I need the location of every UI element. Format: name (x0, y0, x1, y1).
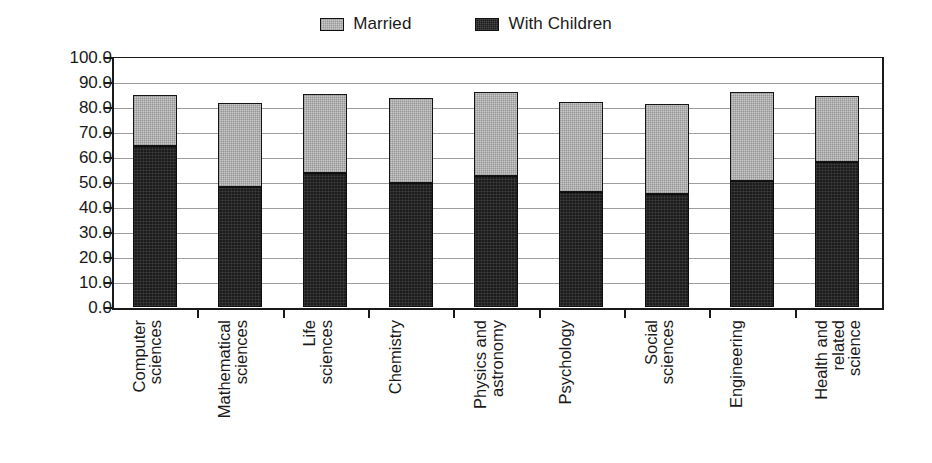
y-tick-mark (104, 57, 112, 59)
y-tick-mark (104, 107, 112, 109)
bar-segment-married (645, 104, 689, 194)
x-axis-label: Mathematicalsciences (216, 320, 249, 463)
bar-segment-married (474, 92, 518, 176)
bar-segment-with-children (389, 183, 433, 307)
chart-container: Married With Children Percent Men 100.09… (0, 0, 932, 463)
bar-segment-married (133, 95, 177, 146)
x-axis-label-line: Social (643, 320, 660, 365)
y-tick-mark (104, 182, 112, 184)
chart-legend: Married With Children (0, 14, 932, 34)
y-tick-label: 0.0 (48, 299, 112, 316)
legend-swatch-with-children-icon (475, 18, 499, 31)
x-axis-label-line: Mathematical (216, 320, 233, 418)
x-axis-label-line: sciences (318, 320, 335, 384)
x-tick-mark (197, 309, 199, 318)
x-axis-label-line: Chemistry (387, 320, 404, 394)
legend-label-with-children: With Children (508, 14, 611, 34)
y-tick-label: 50.0 (48, 174, 112, 191)
x-tick-mark (795, 309, 797, 318)
bar-group (389, 57, 433, 307)
x-axis-label-line: Engineering (728, 320, 745, 408)
x-axis-label: Computersciences (131, 320, 164, 463)
y-tick-label: 70.0 (48, 124, 112, 141)
y-tick-mark (104, 157, 112, 159)
bar-group (474, 57, 518, 307)
y-tick-label: 90.0 (48, 74, 112, 91)
y-tick-label: 20.0 (48, 249, 112, 266)
bar-segment-with-children (815, 162, 859, 307)
x-tick-mark (709, 309, 711, 318)
x-axis-label: Physics andastronomy (472, 320, 505, 463)
bar-group (730, 57, 774, 307)
x-axis-ticks (112, 309, 880, 319)
x-axis-label: Engineering (728, 320, 745, 463)
y-tick-mark (104, 132, 112, 134)
x-axis-label-line: related (830, 320, 847, 370)
y-tick-mark (104, 232, 112, 234)
bar-segment-married (815, 96, 859, 162)
y-tick-label: 10.0 (48, 274, 112, 291)
x-axis-label-line: sciences (659, 320, 676, 384)
bar-segment-married (730, 92, 774, 181)
bar-segment-with-children (559, 192, 603, 307)
y-tick-label: 30.0 (48, 224, 112, 241)
bar-segment-with-children (730, 181, 774, 307)
x-tick-mark (539, 309, 541, 318)
x-axis-label-line: Life (301, 320, 318, 347)
legend-label-married: Married (353, 14, 411, 34)
y-tick-label: 100.0 (48, 49, 112, 66)
x-axis-label-line: Computer (131, 320, 148, 392)
y-tick-mark (104, 207, 112, 209)
bar-segment-with-children (645, 194, 689, 307)
bar-group (645, 57, 689, 307)
x-axis-label-line: sciences (147, 320, 164, 384)
y-tick-mark (104, 257, 112, 259)
y-tick-label: 40.0 (48, 199, 112, 216)
y-tick-mark (104, 307, 112, 309)
y-tick-mark (104, 282, 112, 284)
bar-group (303, 57, 347, 307)
x-axis-label-line: Physics and (472, 320, 489, 409)
bar-segment-with-children (218, 187, 262, 307)
bar-group (815, 57, 859, 307)
x-axis-label-line: Health and (813, 320, 830, 400)
x-axis-label: Psychology (557, 320, 574, 463)
legend-swatch-married-icon (320, 18, 344, 31)
x-tick-mark (453, 309, 455, 318)
x-axis-label: Health andrelatedscience (813, 320, 863, 463)
y-tick-mark (104, 82, 112, 84)
bar-group (559, 57, 603, 307)
x-axis-label-line: science (846, 320, 863, 376)
y-tick-label: 80.0 (48, 99, 112, 116)
bar-group (218, 57, 262, 307)
y-tick-label: 60.0 (48, 149, 112, 166)
bar-group (133, 57, 177, 307)
x-axis-label-line: astronomy (489, 320, 506, 397)
bar-segment-married (389, 98, 433, 183)
x-tick-mark (624, 309, 626, 318)
x-axis-label-line: sciences (233, 320, 250, 384)
bar-segment-married (559, 102, 603, 192)
bar-segment-with-children (303, 173, 347, 307)
bar-segment-married (303, 94, 347, 174)
bars-layer (112, 57, 880, 307)
x-tick-mark (368, 309, 370, 318)
x-axis-label: Lifesciences (301, 320, 334, 463)
legend-item-with-children: With Children (475, 14, 611, 34)
x-axis-label: Socialsciences (643, 320, 676, 463)
legend-item-married: Married (320, 14, 411, 34)
bar-segment-with-children (474, 176, 518, 307)
y-axis-ticks: 100.090.080.070.060.050.040.030.020.010.… (36, 57, 112, 307)
x-axis-label-line: Psychology (557, 320, 574, 404)
x-axis-label: Chemistry (387, 320, 404, 463)
bar-segment-married (218, 103, 262, 187)
x-axis-labels: ComputersciencesMathematicalsciencesLife… (112, 320, 880, 463)
x-tick-mark (283, 309, 285, 318)
bar-segment-with-children (133, 146, 177, 307)
